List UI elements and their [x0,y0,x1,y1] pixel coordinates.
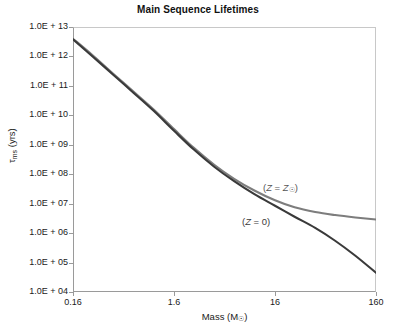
y-axis-title-units: (yrs) [6,128,17,150]
y-axis-title-tau: τ [6,159,17,163]
y-axis-tick-label: 1.0E + 11 [6,80,68,90]
annotation-z-solar-eq: = [272,182,283,193]
plot-curves [73,27,376,292]
x-axis-tick-mark [73,292,74,296]
y-axis-tick-mark [69,86,73,87]
y-axis-title: τms (yrs) [6,111,17,181]
y-axis-tick-mark [69,115,73,116]
y-axis-tick-label: 1.0E + 05 [6,257,68,267]
x-axis-tick-mark [174,292,175,296]
y-axis-tick-mark [69,27,73,28]
x-axis-title-end: ) [244,311,247,322]
annotation-z-zero: (Z = 0) [242,216,270,227]
y-axis-tick-label: 1.0E + 04 [6,286,68,296]
annotation-z-zero-rest: = 0) [251,216,270,227]
x-axis-title: Mass (M☉) [73,311,376,323]
x-axis-tick-mark [376,292,377,296]
x-axis-title-main: Mass (M [202,311,238,322]
y-axis-tick-label: 1.0E + 06 [6,227,68,237]
chart-figure: Main Sequence Lifetimes 1.0E + 131.0E + … [0,0,396,331]
y-axis-tick-label: 1.0E + 12 [6,50,68,60]
y-axis-tick-mark [69,204,73,205]
y-axis-tick-mark [69,56,73,57]
curve-z-solar [73,39,376,220]
y-axis-tick-mark [69,263,73,264]
y-axis-tick-mark [69,233,73,234]
y-axis-tick-label: 1.0E + 07 [6,198,68,208]
y-axis-tick-mark [69,174,73,175]
curve-z-zero [73,39,376,272]
annotation-z-solar-close: ) [295,182,298,193]
x-axis-tick-label: 16 [255,297,295,307]
y-axis-title-sub: ms [11,150,18,159]
x-axis-tick-label: 0.16 [53,297,93,307]
x-axis-tick-label: 1.6 [154,297,194,307]
y-axis-tick-label: 1.0E + 13 [6,21,68,31]
y-axis-tick-mark [69,145,73,146]
y-axis-tick-mark [69,292,73,293]
x-axis-tick-mark [275,292,276,296]
x-axis-tick-label: 160 [356,297,396,307]
annotation-z-solar: (Z = Z☉) [263,182,298,194]
